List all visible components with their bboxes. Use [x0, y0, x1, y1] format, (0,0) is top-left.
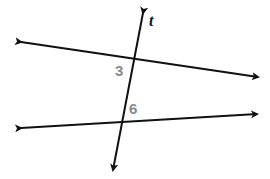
upper-line [21, 42, 258, 77]
angle-label-3: 3 [115, 63, 123, 78]
lines-figure [0, 0, 270, 179]
angle-label-6: 6 [129, 101, 137, 116]
diagram-canvas: t 3 6 [0, 0, 270, 179]
transversal-label: t [149, 13, 153, 29]
lower-line [21, 114, 257, 128]
transversal-line [113, 13, 143, 170]
